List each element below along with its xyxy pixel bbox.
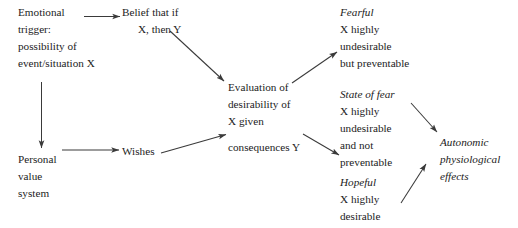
node-hopeful: Hopeful X highly desirable bbox=[340, 174, 380, 225]
node-label-fearful: Fearful bbox=[340, 4, 409, 21]
node-line: effects bbox=[440, 168, 500, 185]
node-line: Belief that if bbox=[122, 4, 181, 21]
flow-diagram: Emotional trigger: possibility of event/… bbox=[0, 0, 518, 228]
node-line: X, then Y bbox=[122, 21, 181, 38]
node-line: but preventable bbox=[340, 55, 409, 72]
node-line: X highly bbox=[340, 103, 395, 120]
node-fearful: Fearful X highly undesirable but prevent… bbox=[340, 4, 409, 72]
node-line: trigger: bbox=[18, 21, 95, 38]
node-autonomic-physiological-effects: Autonomic physiological effects bbox=[440, 134, 500, 185]
node-wishes: Wishes bbox=[122, 143, 155, 160]
node-line: system bbox=[18, 185, 57, 202]
node-line: and not bbox=[340, 137, 395, 154]
node-line: desirability of bbox=[228, 96, 300, 113]
arrow-evaluation-to-state-of-fear bbox=[303, 134, 339, 155]
node-line: preventable bbox=[340, 154, 395, 171]
node-state-of-fear: State of fear X highly undesirable and n… bbox=[340, 86, 395, 171]
arrow-wishes-to-evaluation bbox=[161, 135, 226, 154]
node-line: value bbox=[18, 168, 57, 185]
arrow-hopeful-to-autonomic bbox=[401, 164, 426, 203]
arrow-belief-to-evaluation bbox=[170, 31, 224, 81]
node-line: event/situation X bbox=[18, 55, 95, 72]
node-line: undesirable bbox=[340, 120, 395, 137]
node-label-hopeful: Hopeful bbox=[340, 174, 380, 191]
node-line: possibility of bbox=[18, 38, 95, 55]
node-line: X highly bbox=[340, 21, 409, 38]
node-line: Wishes bbox=[122, 143, 155, 160]
node-line: Evaluation of bbox=[228, 79, 300, 96]
node-evaluation: Evaluation of desirability of X given co… bbox=[228, 79, 300, 156]
node-personal-value-system: Personal value system bbox=[18, 151, 57, 202]
node-line: Autonomic bbox=[440, 134, 500, 151]
node-emotional-trigger: Emotional trigger: possibility of event/… bbox=[18, 4, 95, 72]
node-line: desirable bbox=[340, 208, 380, 225]
node-line: X given bbox=[228, 113, 300, 130]
node-line: X highly bbox=[340, 191, 380, 208]
node-line: Personal bbox=[18, 151, 57, 168]
node-line: physiological bbox=[440, 151, 500, 168]
node-belief: Belief that if X, then Y bbox=[122, 4, 181, 38]
node-line: Emotional bbox=[18, 4, 95, 21]
arrow-state-of-fear-to-autonomic bbox=[411, 103, 437, 132]
node-label-state-of-fear: State of fear bbox=[340, 86, 395, 103]
node-line: consequences Y bbox=[228, 139, 300, 156]
node-line: undesirable bbox=[340, 38, 409, 55]
